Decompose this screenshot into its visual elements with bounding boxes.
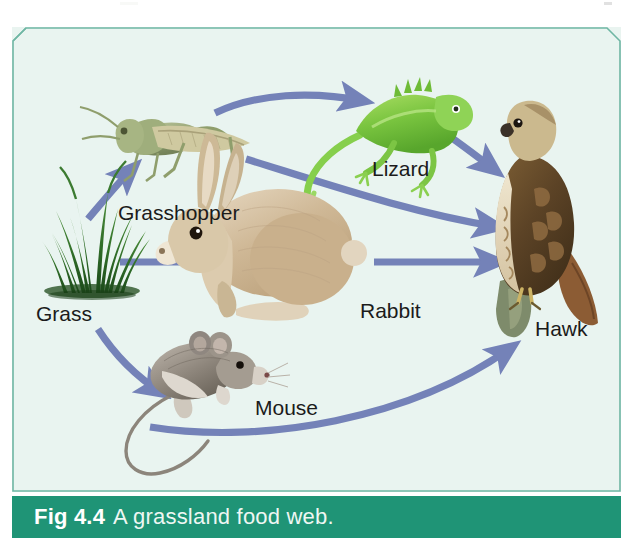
- figure-number: Fig 4.4: [34, 504, 105, 530]
- organism-grasshopper-illustration: [80, 107, 250, 181]
- organism-grass-illustration: [42, 161, 150, 300]
- figure-root: Grass Grasshopper Lizard Rabbit Mouse Ha…: [0, 0, 636, 544]
- food-web-diagram: Grass Grasshopper Lizard Rabbit Mouse Ha…: [12, 27, 621, 492]
- arrow-grasshopper-to-lizard: [215, 95, 364, 113]
- figure-caption-bar: Fig 4.4 A grassland food web.: [12, 496, 621, 538]
- figure-caption-text: A grassland food web.: [113, 504, 334, 530]
- label-grasshopper: Grasshopper: [118, 202, 239, 223]
- organism-hawk-illustration: [496, 101, 599, 337]
- label-grass: Grass: [36, 303, 92, 324]
- label-mouse: Mouse: [255, 397, 318, 418]
- label-rabbit: Rabbit: [360, 300, 421, 321]
- scan-artifact-strip: [0, 0, 636, 14]
- label-hawk: Hawk: [535, 318, 588, 339]
- label-lizard: Lizard: [372, 158, 429, 179]
